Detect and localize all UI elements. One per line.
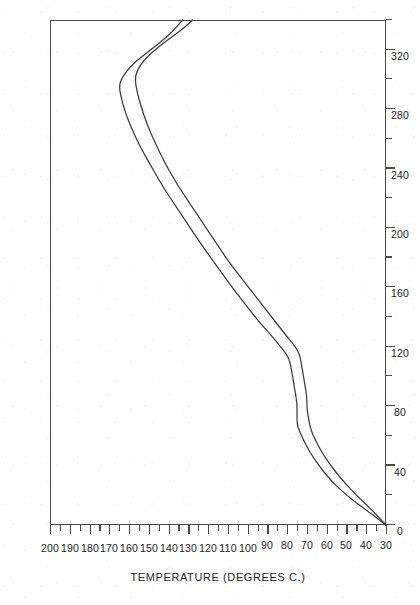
y-axis-minor-tick [60,525,61,531]
y-axis-tick-label: 160 [120,542,138,554]
x-axis-minor-tick [386,197,392,198]
x-axis-tick-label: 120 [391,347,409,359]
y-axis-minor-tick [139,525,140,531]
y-axis-major-tick [169,525,170,534]
y-axis-major-tick [149,525,150,534]
y-axis-minor-tick [258,525,259,531]
y-axis-tick-label: 140 [160,542,178,554]
y-axis-tick-label: 50 [340,539,352,551]
y-axis-major-tick [228,525,229,534]
y-axis-major-tick [188,525,189,534]
x-axis-minor-tick [386,375,392,376]
curve-layer [50,20,386,525]
y-axis-minor-tick [317,525,318,531]
y-axis-tick-label: 150 [140,542,158,554]
y-axis-minor-tick [178,525,179,531]
y-axis-minor-tick [297,525,298,531]
y-axis-tick-label: 60 [321,539,333,551]
y-axis-minor-tick [99,525,100,531]
y-axis-tick-label: 80 [281,539,293,551]
y-axis-tick-label: 90 [261,539,273,551]
x-axis-tick-label: 320 [391,50,409,62]
x-axis-tick-label: 40 [394,466,406,478]
y-axis-tick-label: 170 [100,542,118,554]
y-axis-major-tick [90,525,91,534]
y-axis-major-tick [208,525,209,534]
x-axis-minor-tick [386,494,392,495]
y-axis-tick-label: 30 [380,539,392,551]
y-axis-major-tick [248,525,249,534]
x-axis-tick-label: 0 [397,525,403,537]
y-axis-major-tick [366,525,367,534]
y-axis-major-tick [386,525,387,534]
y-axis-tick-label: 100 [239,542,257,554]
y-axis-title: TEMPERATURE (DEGREES C.) [131,571,306,583]
figure-page: 04080120160200240280320 3040506070809010… [0,0,420,605]
rotated-figure-wrapper: 04080120160200240280320 3040506070809010… [0,0,420,605]
x-axis-tick-label: 160 [391,287,409,299]
y-axis-tick-label: 190 [61,542,79,554]
y-axis-minor-tick [80,525,81,531]
y-axis-major-tick [70,525,71,534]
y-axis-minor-tick [238,525,239,531]
y-axis-tick-label: 180 [80,542,98,554]
y-axis-tick-label: 110 [219,542,236,554]
y-axis-tick-label: 70 [301,539,313,551]
series-line-lower-curve [135,20,386,525]
y-axis-minor-tick [376,525,377,531]
y-axis-minor-tick [356,525,357,531]
y-axis-major-tick [267,525,268,534]
x-axis-minor-tick [386,316,392,317]
y-axis-major-tick [346,525,347,534]
y-axis-major-tick [109,525,110,534]
y-axis-minor-tick [277,525,278,531]
y-axis-major-tick [307,525,308,534]
x-axis-minor-tick [386,138,392,139]
series-line-upper-curve [120,20,386,525]
x-axis-tick-label: 200 [391,228,409,240]
x-axis-minor-tick [386,435,392,436]
x-axis-minor-tick [386,256,392,257]
x-axis-minor-tick [386,19,392,20]
y-axis-minor-tick [159,525,160,531]
y-axis-major-tick [327,525,328,534]
y-axis-tick-label: 200 [41,542,59,554]
x-axis-minor-tick [386,78,392,79]
y-axis-major-tick [287,525,288,534]
y-axis-tick-label: 130 [179,542,197,554]
y-axis-minor-tick [218,525,219,531]
x-axis-tick-label: 240 [391,169,409,181]
y-axis-minor-tick [337,525,338,531]
chart-area: 04080120160200240280320 3040506070809010… [0,0,420,605]
x-axis-tick-label: 280 [391,109,409,121]
y-axis-tick-label: 120 [199,542,217,554]
y-axis-tick-label: 40 [360,539,372,551]
y-axis-minor-tick [198,525,199,531]
x-axis-tick-label: 80 [394,406,406,418]
y-axis-major-tick [129,525,130,534]
y-axis-minor-tick [119,525,120,531]
y-axis-major-tick [50,525,51,534]
x-axis-major-tick [386,524,395,525]
